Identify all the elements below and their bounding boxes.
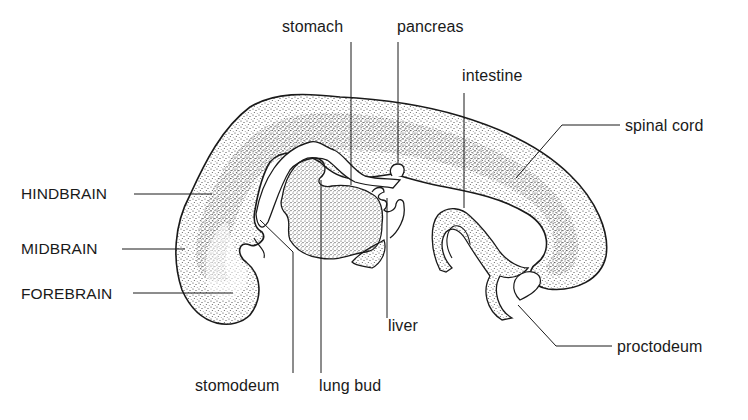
embryo-illustration bbox=[0, 0, 748, 420]
label-forebrain: FOREBRAIN bbox=[21, 286, 112, 302]
leader-stomodeum bbox=[260, 220, 293, 373]
label-pancreas: pancreas bbox=[397, 19, 464, 35]
label-lung-bud: lung bud bbox=[319, 378, 381, 394]
label-intestine: intestine bbox=[462, 68, 523, 84]
label-stomodeum: stomodeum bbox=[195, 378, 280, 394]
embryo-diagram: stomach pancreas intestine spinal cord H… bbox=[0, 0, 748, 420]
proctodeum-curl bbox=[514, 272, 541, 300]
label-liver: liver bbox=[388, 318, 418, 334]
label-stomach: stomach bbox=[282, 19, 343, 35]
label-midbrain: MIDBRAIN bbox=[21, 241, 98, 257]
label-proctodeum: proctodeum bbox=[617, 339, 703, 355]
label-spinal-cord: spinal cord bbox=[625, 118, 703, 134]
hindgut-loop bbox=[432, 209, 528, 320]
leader-proctodeum bbox=[518, 305, 612, 346]
label-hindbrain: HINDBRAIN bbox=[21, 186, 107, 202]
pancreas-bud bbox=[390, 164, 404, 176]
